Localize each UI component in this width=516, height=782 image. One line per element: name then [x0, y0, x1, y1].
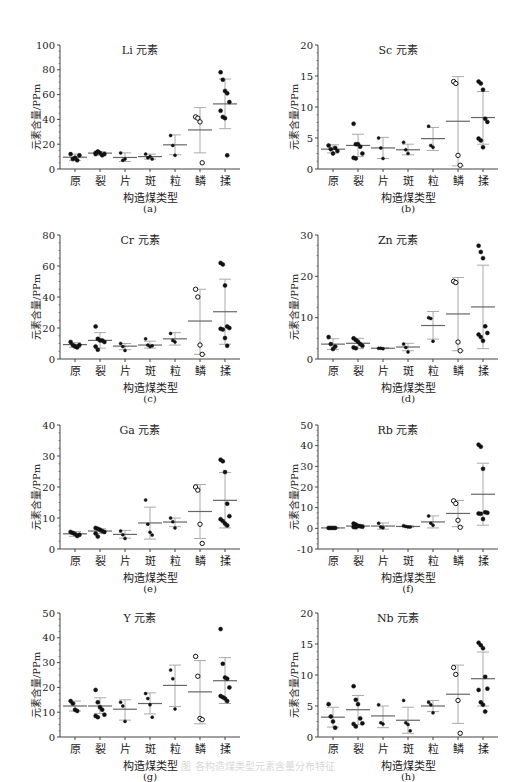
y-tick-label: 20: [42, 482, 55, 493]
data-point: [119, 530, 122, 533]
data-point: [124, 158, 127, 161]
category-group: [346, 684, 370, 728]
x-tick-label: 鳞: [453, 174, 464, 188]
data-point: [69, 152, 73, 156]
y-tick-label: 10: [300, 102, 313, 113]
x-tick-label: 揉: [220, 364, 231, 378]
y-tick-label: 60: [42, 89, 55, 100]
chart-panel-0: 020406080100原裂片斑粒鳞揉Li 元素元素含量/PPm构造煤类型(a): [0, 0, 258, 190]
data-point: [196, 295, 200, 299]
y-axis-title: 元素含量/PPm: [28, 84, 43, 150]
category-group: [88, 324, 112, 351]
data-point: [409, 729, 412, 732]
x-tick-label: 斑: [403, 175, 414, 188]
data-point: [402, 343, 405, 346]
y-tick-label: 10: [300, 312, 313, 323]
x-tick-label: 揉: [478, 364, 489, 378]
data-point: [407, 152, 410, 155]
data-point: [225, 153, 229, 157]
y-tick-label: 0: [49, 164, 55, 175]
data-point: [329, 715, 333, 719]
x-tick-label: 裂: [353, 365, 364, 378]
data-point: [221, 662, 225, 666]
x-tick-label: 原: [328, 175, 339, 188]
data-point: [227, 326, 231, 330]
data-point: [427, 125, 430, 128]
data-point: [456, 698, 460, 702]
data-point: [102, 713, 106, 717]
data-point: [479, 335, 483, 339]
x-tick-label: 裂: [95, 743, 106, 756]
y-tick-label: 40: [42, 632, 55, 643]
data-point: [454, 672, 458, 676]
category-group: [213, 627, 237, 703]
chart-title: Li 元素: [122, 41, 158, 57]
y-tick-label: 30: [300, 461, 313, 472]
data-point: [174, 707, 177, 710]
chart-title: Ga 元素: [120, 421, 161, 437]
data-point: [479, 250, 483, 254]
data-point: [402, 141, 405, 144]
y-tick-label: 40: [300, 440, 313, 451]
data-point: [174, 154, 177, 157]
data-point: [427, 514, 430, 517]
x-tick-label: 原: [328, 365, 339, 378]
category-group: [421, 125, 445, 151]
data-point: [144, 337, 147, 340]
x-tick-label: 片: [120, 555, 131, 568]
data-point: [171, 677, 174, 680]
data-point: [200, 161, 204, 165]
data-point: [146, 523, 149, 526]
y-tick-label: 0: [49, 354, 55, 365]
data-point: [454, 501, 458, 505]
category-group: [446, 499, 470, 530]
data-point: [221, 262, 225, 266]
data-point: [458, 525, 462, 529]
data-point: [121, 533, 124, 536]
data-point: [331, 720, 335, 724]
data-point: [333, 345, 337, 349]
data-point: [75, 709, 79, 713]
category-group: [138, 153, 162, 161]
data-point: [227, 514, 231, 518]
data-point: [329, 342, 333, 346]
data-point: [193, 287, 197, 291]
data-point: [354, 525, 358, 529]
category-group: [396, 343, 420, 354]
category-group: [63, 340, 87, 349]
data-point: [223, 470, 227, 474]
category-group: [138, 692, 162, 719]
data-point: [432, 524, 435, 527]
data-point: [377, 703, 380, 706]
x-tick-label: 原: [328, 555, 339, 568]
data-point: [71, 702, 75, 706]
chart-title: Sc 元素: [378, 41, 417, 57]
category-group: [346, 522, 370, 530]
data-point: [225, 523, 229, 527]
y-tick-label: 40: [42, 292, 55, 303]
data-point: [119, 151, 122, 154]
data-point: [382, 722, 385, 725]
data-point: [77, 533, 81, 537]
data-point: [407, 723, 410, 726]
y-tick-label: 0: [307, 164, 313, 175]
data-point: [485, 120, 489, 124]
x-tick-label: 原: [70, 555, 81, 568]
data-point: [227, 100, 231, 104]
chart-panel-6: 01020304050原裂片斑粒鳞揉Y 元素元素含量/PPm构造煤类型(g): [0, 568, 258, 758]
data-point: [404, 148, 407, 151]
data-point: [151, 716, 154, 719]
data-point: [456, 153, 460, 157]
x-tick-label: 揉: [478, 742, 489, 756]
data-point: [75, 158, 79, 162]
category-group: [188, 108, 212, 165]
category-group: [421, 311, 445, 342]
data-point: [454, 81, 458, 85]
data-point: [198, 120, 202, 124]
y-axis-title: 元素含量/PPm: [286, 464, 301, 530]
data-point: [485, 511, 489, 515]
y-tick-label: -10: [297, 544, 313, 555]
data-point: [144, 499, 147, 502]
data-point: [352, 684, 356, 688]
category-group: [421, 700, 445, 714]
